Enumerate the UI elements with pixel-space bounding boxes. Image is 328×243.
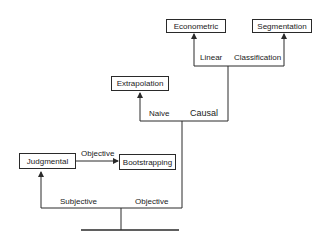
label-linear: Linear [200,54,222,62]
node-extrapolation: Extrapolation [111,76,169,91]
node-econometric: Econometric [166,19,226,33]
label-causal: Causal [190,109,218,118]
connector-lines [0,0,328,243]
label-naive: Naive [149,110,169,118]
label-objective-top: Objective [81,150,114,158]
label-subjective: Subjective [60,198,97,206]
node-judgmental: Judgmental [19,153,76,169]
label-classification: Classification [234,54,281,62]
label-objective-bottom: Objective [135,198,168,206]
node-bootstrapping: Bootstrapping [119,154,176,170]
node-segmentation: Segmentation [252,19,312,33]
